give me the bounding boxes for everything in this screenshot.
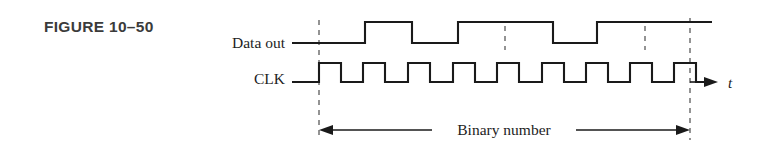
waveform-clk [292, 63, 706, 82]
span-arrowhead-left [319, 125, 333, 135]
span-arrowhead-right [676, 125, 690, 135]
signal-label-clk: CLK [254, 70, 286, 87]
time-axis-label: t [728, 75, 733, 91]
waveform-data-out [292, 22, 712, 43]
time-axis-arrowhead [704, 77, 718, 87]
signal-label-data-out: Data out [232, 34, 286, 51]
span-label-binary-number: Binary number [457, 121, 551, 138]
timing-diagram: Data out CLK t Binary number [0, 0, 768, 154]
